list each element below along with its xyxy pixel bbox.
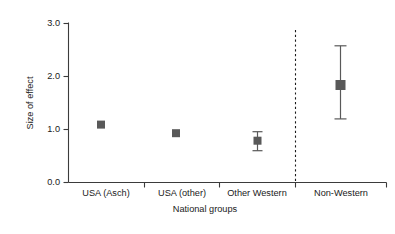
data-point-usa-asch (97, 121, 105, 129)
marker-square-non-western (336, 80, 346, 90)
x-tick-label-other-western: Other Western (227, 188, 287, 198)
x-axis-title: National groups (173, 204, 238, 214)
x-tick-label-non-western: Non-Western (314, 188, 368, 198)
y-axis-title: Size of effect (25, 76, 35, 129)
y-tick-label-0: 0.0 (47, 177, 60, 187)
marker-square-usa-asch (97, 121, 105, 129)
marker-square-other-western (254, 137, 262, 145)
data-point-non-western (335, 46, 347, 119)
x-tick-label-usa-asch: USA (Asch) (82, 188, 129, 198)
x-tick-label-usa-other: USA (other) (158, 188, 206, 198)
effect-size-scatter-chart: 0.0 1.0 2.0 3.0 (0, 0, 395, 234)
y-tick-label-3: 3.0 (47, 18, 60, 28)
x-axis-ticks (145, 183, 387, 188)
y-axis-ticks (64, 24, 69, 183)
chart-container: 0.0 1.0 2.0 3.0 (0, 0, 395, 234)
marker-square-usa-other (172, 129, 180, 137)
y-tick-label-1: 1.0 (47, 124, 60, 134)
data-point-usa-other (172, 129, 180, 137)
y-tick-label-2: 2.0 (47, 71, 60, 81)
data-point-other-western (253, 132, 263, 151)
